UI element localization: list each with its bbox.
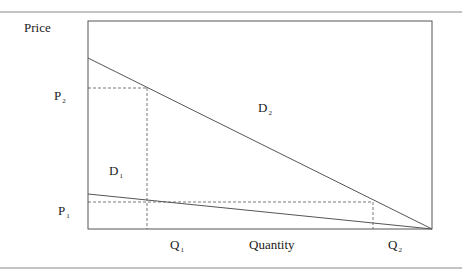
- q2-label: Q2: [388, 237, 402, 254]
- q1-label: Q1: [170, 237, 184, 254]
- x-axis-label: Quantity: [249, 237, 295, 253]
- d2-label: D2: [258, 100, 272, 117]
- demand-curve-d2: [88, 58, 432, 229]
- d1-label: D1: [109, 163, 123, 180]
- plot-frame: [88, 21, 432, 229]
- p2-label: P2: [54, 88, 66, 105]
- demand-curve-d1: [88, 194, 432, 229]
- p1-label: P1: [58, 203, 70, 220]
- y-axis-label: Price: [24, 20, 51, 36]
